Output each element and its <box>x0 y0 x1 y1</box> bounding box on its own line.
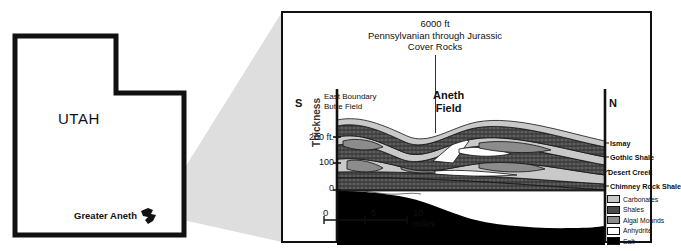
lithology-legend: Carbonates Shales Algal Mounds Anhydrite… <box>607 194 651 247</box>
legend-label-anhydrite: Anhydrite <box>623 227 652 234</box>
carbonates-swatch-icon <box>607 195 620 203</box>
utah-state-outline <box>12 33 187 238</box>
salt-swatch-icon <box>607 237 620 245</box>
anhydrite-swatch-icon <box>607 227 620 235</box>
legend-label-algal-mounds: Algal Mounds <box>623 217 664 224</box>
legend-label-shales: Shales <box>623 206 644 213</box>
shales-swatch-icon <box>607 206 620 214</box>
y-tick-0: 0 <box>292 183 334 193</box>
state-name-label: UTAH <box>58 110 100 127</box>
legend-item-algal-mounds: Algal Mounds <box>607 215 651 225</box>
legend-item-shales: Shales <box>607 205 651 215</box>
strat-label-ismay: Ismay <box>610 139 630 148</box>
y-tick-100: 100 <box>292 157 334 167</box>
scale-bar: 0 5 10 miles <box>323 207 448 220</box>
legend-item-salt: Salt <box>607 236 651 246</box>
scale-tick-10: 10 miles <box>413 207 448 229</box>
legend-item-carbonates: Carbonates <box>607 194 651 204</box>
greater-aneth-field-icon <box>140 206 158 226</box>
utah-locator-map: UTAH Greater Aneth <box>0 0 280 251</box>
legend-label-carbonates: Carbonates <box>623 196 658 203</box>
algal-mounds-swatch-icon <box>607 216 620 224</box>
legend-item-anhydrite: Anhydrite <box>607 226 651 236</box>
strat-label-chimney-rock-shale: Chimney Rock Shale <box>610 182 681 191</box>
scale-tick-5: 5 <box>371 207 376 218</box>
scale-tick-0: 0 <box>323 207 328 218</box>
strat-label-gothic-shale: Gothic Shale <box>610 153 654 162</box>
cross-section-panel: 6000 ft Pennsylvanian through Jurassic C… <box>281 11 652 243</box>
y-tick-200: 200 ft. <box>292 132 334 142</box>
greater-aneth-label: Greater Aneth <box>74 210 137 221</box>
strat-label-desert-creek: Desert Creek <box>608 168 652 177</box>
legend-label-salt: Salt <box>623 238 635 245</box>
y-axis-title: Thickness <box>311 88 322 158</box>
